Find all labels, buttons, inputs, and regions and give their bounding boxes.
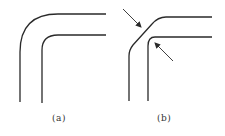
figure-a-outer-wall bbox=[20, 14, 106, 102]
figure-a-bend bbox=[20, 14, 106, 103]
figure-b-label: (b) bbox=[157, 113, 171, 123]
figure-a-inner-wall bbox=[42, 35, 106, 103]
outer-corner-arrow-icon bbox=[123, 9, 141, 27]
figure-a-label: (a) bbox=[52, 113, 66, 123]
inner-corner-arrow-icon bbox=[155, 43, 173, 61]
figure-b-inner-wall bbox=[148, 37, 212, 101]
diagram-canvas bbox=[0, 0, 225, 136]
